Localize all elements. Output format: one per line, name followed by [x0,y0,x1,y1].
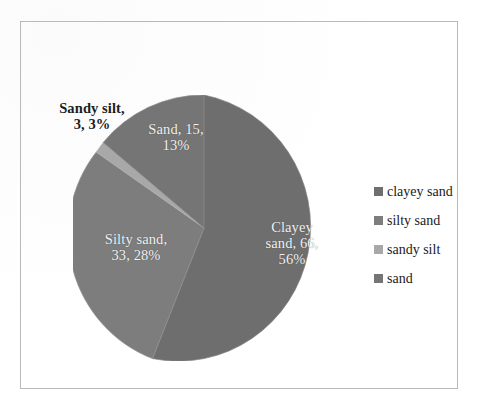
legend-swatch-icon [374,274,383,283]
legend-item-sand[interactable]: sand [374,264,474,293]
legend-swatch-icon [374,216,383,225]
legend-label: clayey sand [387,185,453,199]
legend-label: silty sand [387,214,440,228]
legend-item-sandy-silt[interactable]: sandy silt [374,235,474,264]
legend-swatch-icon [374,245,383,254]
legend-swatch-icon [374,187,383,196]
pie-label-silty-sand: Silty sand, 33, 28% [77,231,195,263]
pie-label-sand: Sand, 15, 13% [124,121,228,153]
pie-label-clayey-sand: Clayey sand, 66, 56% [239,219,345,268]
legend-item-silty-sand[interactable]: silty sand [374,206,474,235]
chart-legend: clayey sand silty sand sandy silt sand [374,177,474,293]
legend-item-clayey-sand[interactable]: clayey sand [374,177,474,206]
legend-label: sand [387,272,413,286]
legend-label: sandy silt [387,243,440,257]
chart-frame: Sandy silt, 3, 3% Sand, 15, 13% Silty sa… [20,21,458,389]
